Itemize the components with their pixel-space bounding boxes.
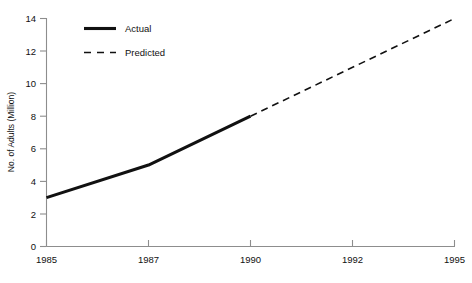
x-tick-label-1987: 1987	[138, 254, 159, 265]
line-chart-figure: 14 12 10 8 6 4 2 0 No. of Adults (Millio…	[0, 0, 472, 283]
x-tick-label-1992: 1992	[342, 254, 363, 265]
x-tick-label-1985: 1985	[36, 254, 57, 265]
chart-canvas: 14 12 10 8 6 4 2 0 No. of Adults (Millio…	[0, 0, 472, 283]
x-tick-label-1995: 1995	[444, 254, 465, 265]
y-axis-title: No. of Adults (Million)	[6, 92, 16, 172]
y-tick-label-14: 14	[25, 13, 36, 24]
legend-label-predicted: Predicted	[125, 47, 165, 58]
legend-label-actual: Actual	[125, 23, 151, 34]
y-tick-label-2: 2	[31, 209, 36, 220]
y-tick-label-12: 12	[25, 46, 36, 57]
y-tick-label-6: 6	[31, 143, 36, 154]
y-tick-label-0: 0	[31, 241, 36, 252]
y-tick-label-4: 4	[31, 176, 36, 187]
y-tick-label-10: 10	[25, 78, 36, 89]
y-tick-label-8: 8	[31, 111, 36, 122]
chart-background	[0, 0, 472, 283]
x-tick-label-1990: 1990	[240, 254, 261, 265]
